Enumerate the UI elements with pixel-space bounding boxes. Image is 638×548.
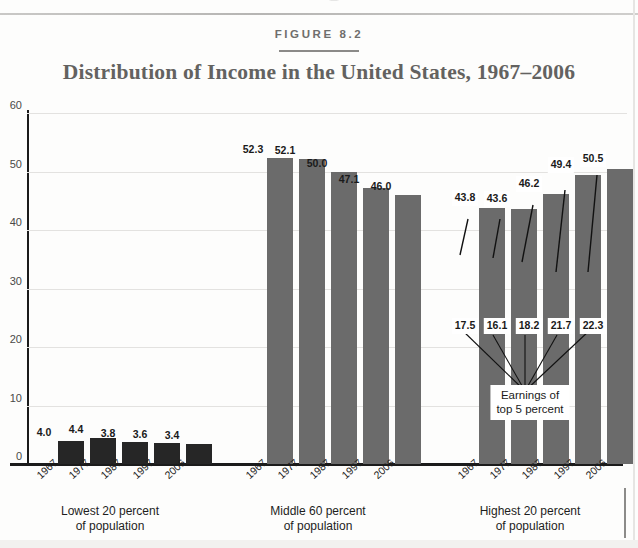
y-axis-tick-label: 60 xyxy=(0,99,22,111)
bar-value-label: 50.0 xyxy=(307,157,327,169)
group-caption-line-2: of population xyxy=(61,519,159,534)
group-caption: Lowest 20 percentof population xyxy=(61,504,159,534)
group-caption: Middle 60 percentof population xyxy=(270,504,365,534)
group-caption-line-2: of population xyxy=(480,519,581,534)
bar-value-label: 4.4 xyxy=(69,423,84,435)
figure-label: FIGURE 8.2 xyxy=(0,28,638,40)
bar-value-label: 3.4 xyxy=(165,429,180,441)
page-right-tick xyxy=(624,488,626,538)
bar[interactable] xyxy=(267,158,293,464)
page-top-rule xyxy=(0,13,638,15)
page-bottom-edge xyxy=(0,540,638,548)
figure-title: Distribution of Income in the United Sta… xyxy=(0,60,638,85)
y-axis-tick-label: 20 xyxy=(0,333,22,345)
annotation-value-label: 16.1 xyxy=(484,318,510,334)
bar-value-label: 49.4 xyxy=(548,157,574,173)
group-caption-line-2: of population xyxy=(270,519,365,534)
group-caption-line-1: Highest 20 percent xyxy=(480,504,581,519)
bar-value-label: 50.5 xyxy=(580,151,606,167)
group-caption-line-1: Lowest 20 percent xyxy=(61,504,159,519)
bar-value-label: 46.0 xyxy=(371,180,391,192)
bar-value-label: 52.3 xyxy=(243,143,263,155)
bar[interactable] xyxy=(363,188,389,464)
bar[interactable] xyxy=(299,159,325,464)
bar[interactable] xyxy=(511,209,537,464)
gridline xyxy=(27,172,627,173)
gridline xyxy=(27,230,627,231)
bar[interactable] xyxy=(331,172,357,465)
annotation-value-label: 22.3 xyxy=(580,318,606,334)
bar-value-label: 46.2 xyxy=(516,176,542,192)
bar-value-label: 3.6 xyxy=(133,428,148,440)
bar[interactable] xyxy=(395,195,421,464)
figure-page: FIGURE 8.2 Distribution of Income in the… xyxy=(0,0,638,548)
bar-value-label: 52.1 xyxy=(275,144,295,156)
bar-value-label: 47.1 xyxy=(339,173,359,185)
y-axis-tick-label: 30 xyxy=(0,275,22,287)
bar-value-label: 3.8 xyxy=(101,427,116,439)
bar[interactable] xyxy=(186,444,212,464)
bar[interactable] xyxy=(479,208,505,464)
callout-line-2: top 5 percent xyxy=(496,402,563,416)
callout-earnings-top-5-percent: Earnings of top 5 percent xyxy=(490,385,569,420)
bar-value-label: 43.8 xyxy=(452,190,478,206)
group-caption-line-1: Middle 60 percent xyxy=(270,504,365,519)
bar[interactable] xyxy=(607,169,633,464)
gridline xyxy=(27,347,627,348)
y-axis-tick-label: 0 xyxy=(0,450,22,462)
annotation-value-label: 17.5 xyxy=(452,318,478,334)
bar-value-label: 43.6 xyxy=(484,191,510,207)
y-axis-tick-label: 40 xyxy=(0,216,22,228)
y-axis-tick-label: 10 xyxy=(0,392,22,404)
callout-line-1: Earnings of xyxy=(496,388,563,402)
group-caption: Highest 20 percentof population xyxy=(480,504,581,534)
figure-divider xyxy=(279,50,359,52)
gridline xyxy=(27,289,627,290)
annotation-value-label: 21.7 xyxy=(548,318,574,334)
y-axis-tick-label: 50 xyxy=(0,158,22,170)
gridline xyxy=(27,113,627,114)
annotation-value-label: 18.2 xyxy=(516,318,542,334)
bar-value-label: 4.0 xyxy=(37,426,52,438)
